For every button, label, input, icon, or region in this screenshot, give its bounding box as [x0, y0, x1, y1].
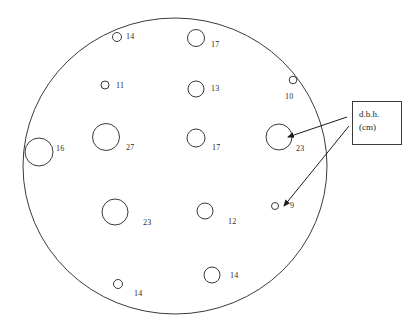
tree-dbh-label: 14	[230, 272, 238, 280]
tree-dbh-label: 14	[134, 290, 142, 298]
tree-dbh-label: 14	[126, 33, 134, 41]
tree-dbh-label: 27	[126, 144, 134, 152]
tree-dbh-label: 10	[285, 93, 293, 101]
sample-plot-boundary	[23, 18, 327, 314]
leader-to-tree-9	[284, 126, 349, 206]
tree-dbh-label: 16	[56, 145, 64, 153]
leader-to-tree-23	[288, 117, 347, 137]
tree-dbh-label: 12	[228, 218, 236, 226]
tree-circle	[188, 81, 204, 97]
tree-circles-group	[25, 30, 297, 289]
tree-circle	[102, 199, 128, 225]
tree-circle	[187, 129, 205, 147]
plot-canvas	[0, 0, 412, 331]
stem-map-figure: 141711131016271723231291414 d.b.h. (cm)	[0, 0, 412, 331]
tree-dbh-label: 11	[116, 82, 124, 90]
tree-dbh-label: 17	[211, 41, 219, 49]
tree-circle	[197, 203, 213, 219]
tree-circle	[272, 203, 279, 210]
tree-dbh-label: 17	[212, 144, 220, 152]
dbh-legend-line-1: d.b.h.	[359, 108, 401, 121]
tree-dbh-label: 9	[290, 202, 294, 210]
tree-circle	[204, 267, 220, 283]
tree-circle	[113, 33, 122, 42]
dbh-legend-box: d.b.h. (cm)	[352, 101, 402, 145]
dbh-legend-line-2: (cm)	[359, 121, 401, 134]
tree-dbh-label: 23	[143, 219, 151, 227]
tree-circle	[188, 30, 205, 47]
tree-dbh-label: 13	[211, 85, 219, 93]
tree-circle	[114, 280, 123, 289]
tree-circle	[25, 138, 53, 166]
tree-circle	[93, 124, 120, 151]
tree-dbh-label: 23	[296, 145, 304, 153]
tree-circle	[101, 81, 109, 89]
legend-leader-lines	[284, 117, 349, 206]
tree-circle	[289, 76, 297, 84]
plot-boundary-circle	[23, 18, 327, 314]
